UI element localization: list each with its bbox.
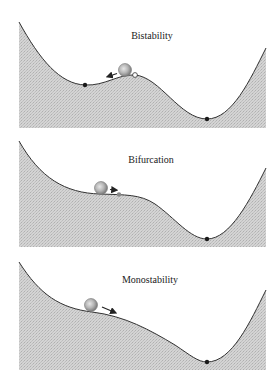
stable-point-icon [205,360,209,364]
panel-bifurcation: Bifurcation [19,141,266,247]
arrow-right-icon [102,307,115,313]
panel-monostability: Monostability [19,262,266,370]
stable-point-icon [205,117,209,121]
ball-icon [85,299,98,312]
stable-point-icon [205,237,209,241]
panel-title: Bifurcation [128,154,174,165]
panel-title: Monostability [122,274,178,285]
panel-bistability: Bistability [19,22,266,128]
arrow-right-icon [110,190,116,191]
saddle-point-icon [117,192,121,196]
panel-title: Bistability [131,30,173,41]
stable-point-icon [83,83,87,87]
unstable-point-icon [133,73,138,78]
arrow-left-icon [108,74,117,77]
ball-icon [119,64,132,77]
ball-icon [95,182,108,195]
landscape-diagram: Bistability Bifurcation Monostability [0,0,279,387]
